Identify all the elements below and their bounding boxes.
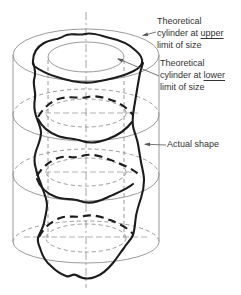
label-lower-line1: Theoretical bbox=[160, 57, 225, 69]
label-actual-shape: Actual shape bbox=[167, 138, 219, 150]
actual-section3-front bbox=[37, 179, 133, 202]
label-lower-line2: cylinder at lower bbox=[160, 69, 225, 81]
actual-shape-outline bbox=[33, 33, 144, 278]
actual-top-rim bbox=[33, 33, 142, 82]
label-lower-line3: limit of size bbox=[160, 81, 225, 93]
label-lower-limit: Theoretical cylinder at lower limit of s… bbox=[160, 57, 225, 93]
upper-arrow-icon bbox=[142, 33, 148, 36]
cylindricity-diagram: Theoretical cylinder at upper limit of s… bbox=[0, 0, 241, 295]
underlined-word-lower: lower bbox=[204, 70, 226, 80]
label-upper-limit: Theoretical cylinder at upper limit of s… bbox=[157, 15, 224, 51]
label-upper-line2: cylinder at upper bbox=[157, 27, 224, 39]
actual-silhouette bbox=[33, 62, 144, 278]
actual-section2-front bbox=[38, 119, 132, 142]
center-axis-line bbox=[24, 12, 150, 288]
underlined-word-upper: upper bbox=[201, 28, 224, 38]
label-upper-line1: Theoretical bbox=[157, 15, 224, 27]
actual-arrow-icon bbox=[144, 143, 150, 147]
label-upper-line3: limit of size bbox=[157, 39, 224, 51]
